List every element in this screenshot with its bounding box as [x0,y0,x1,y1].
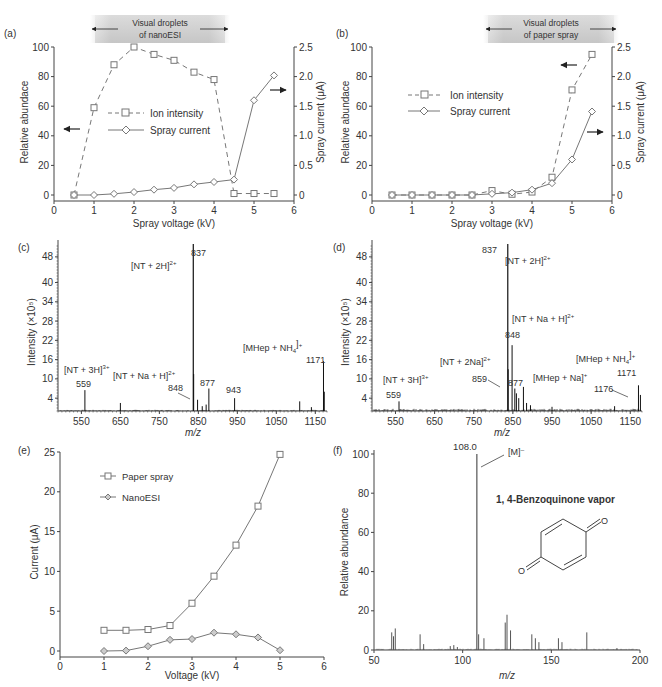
svg-text:[MHep + NH4]+: [MHep + NH4]+ [243,339,303,354]
x-tick-label: 1050 [580,416,603,427]
y-tick-label: 40 [38,130,50,141]
panel-a-ylabel: Relative abundace [19,80,30,163]
x-tick-label: 550 [387,416,404,427]
x-tick-label: 5 [251,205,257,216]
panel-c-label: (c) [18,242,30,253]
diamond-marker-icon [589,108,596,115]
diamond-marker-icon [191,181,198,188]
svg-text:848: 848 [168,383,183,393]
x-tick-label: 5 [569,205,575,216]
square-marker-icon [231,191,237,197]
y2-tick-label: 1.5 [617,101,631,112]
y-tick-label: 0 [43,190,49,201]
y-tick-label: 20 [38,160,50,171]
y-tick-label: 34 [356,296,368,307]
square-marker-icon [167,623,173,629]
svg-text:[NT + Na + H]2+: [NT + Na + H]2+ [113,370,176,381]
square-marker-icon [251,191,257,197]
series-line [392,112,592,195]
x-tick-label: 850 [190,416,207,427]
y-tick-label: 4 [361,393,367,404]
x-tick-label: 150 [543,655,560,666]
x-tick-label: 100 [454,655,471,666]
panel-d-annotations: 837 [NT + 2H]2+ [NT + Na + H]2+ 848 [NT … [383,245,636,400]
y-tick-label: 0 [361,190,367,201]
x-tick-label: 6 [291,205,297,216]
panel-f-ylabel: Relative abundance [339,507,350,596]
x-tick-label: 850 [505,416,522,427]
panel-c-xlabel: m/z [185,427,201,438]
diamond-marker-icon [211,629,218,636]
x-tick-label: 750 [465,416,482,427]
square-marker-icon [277,451,283,457]
y2-tick-label: 0 [617,190,623,201]
panel-d-label: (d) [333,242,345,253]
panel-a-xlabel: Spray voltage (kV) [133,218,215,229]
y-tick-label: 10 [356,373,368,384]
svg-text:848: 848 [505,330,520,340]
y2-tick-label: 2.5 [617,42,631,53]
x-tick-label: 0 [57,661,63,672]
panel-b-ion-intensity-vs-voltage-paper-spray: 012345602040608010000.51.01.52.02.5 [350,42,631,217]
banner-paper-spray: Visual droplets of paper spray [483,15,619,43]
y-tick-label: 48 [356,251,368,262]
panel-f-ion-label: [M]⁻ [508,447,526,457]
x-tick-label: 2 [131,205,137,216]
svg-text:877: 877 [508,378,523,388]
svg-text:[NT + 2H]2+: [NT + 2H]2+ [131,260,177,271]
y-tick-label: 40 [42,277,54,288]
x-tick-label: 0 [369,205,375,216]
svg-text:[NT + Na + H]2+: [NT + Na + H]2+ [512,313,575,324]
svg-text:837: 837 [191,248,206,258]
y-tick-label: 22 [42,335,54,346]
y-tick-label: 80 [358,488,370,499]
diamond-marker-icon [131,189,138,196]
panel-c-ylabel: Intensity (×10⁵) [26,298,37,366]
square-marker-icon [211,77,217,83]
square-marker-icon [91,105,97,111]
y-tick-label: 5 [49,606,55,617]
square-marker-icon [111,62,117,68]
x-tick-label: 750 [151,416,168,427]
panel-d-ylabel: Intensity (×10⁵) [340,298,351,366]
svg-text:1171: 1171 [306,355,325,365]
diamond-marker-icon [105,494,111,500]
y-tick-label: 28 [356,316,368,327]
panel-c-annotations: [NT + 2H]2+ 837 [NT + 3H]3+ 559 [NT + Na… [64,248,325,399]
x-tick-label: 6 [609,205,615,216]
diamond-marker-icon [91,192,98,199]
y-tick-label: 60 [356,101,368,112]
panel-e-current-vs-voltage: 01234560510152025 [44,447,327,673]
y2-tick-label: 1.5 [299,101,313,112]
y-tick-label: 16 [42,354,54,365]
panel-b-legend-current: Spray current [450,106,510,117]
x-tick-label: 50 [368,655,380,666]
panel-e-ylabel: Current (μA) [29,524,40,579]
panel-a-legend-current: Spray current [150,125,210,136]
banner-paper-spray-line2: of paper spray [524,30,579,40]
panel-e-label: (e) [18,445,30,456]
x-tick-label: 1150 [620,416,642,427]
series-line [392,54,592,195]
panel-a-y2label: Spray current (μA) [315,81,326,163]
square-marker-icon [145,627,151,633]
square-marker-icon [421,91,428,98]
square-marker-icon [171,57,177,63]
square-marker-icon [189,600,195,606]
y2-tick-label: 0.5 [617,160,631,171]
figure-canvas: 012345602040608010000.51.01.52.02.5 0123… [0,0,662,687]
diamond-marker-icon [233,631,240,638]
diamond-marker-icon [151,186,158,193]
y2-tick-label: 2.0 [299,71,313,82]
svg-text:1176: 1176 [594,384,613,394]
panel-e-legend-paper: Paper spray [122,471,173,482]
svg-text:877: 877 [200,378,215,388]
diamond-marker-icon [111,190,118,197]
panel-f-label: (f) [333,445,342,456]
panel-f-xlabel: m/z [499,670,515,681]
x-tick-label: 1150 [305,416,327,427]
y2-tick-label: 0 [299,190,305,201]
x-tick-label: 1 [409,205,415,216]
x-tick-label: 1050 [265,416,288,427]
x-tick-label: 5 [277,661,283,672]
